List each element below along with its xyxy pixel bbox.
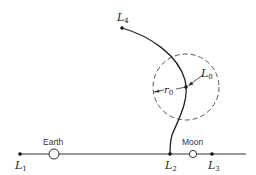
label-l1: L1 — [14, 159, 27, 173]
label-r0: r0 — [164, 84, 173, 97]
point-l4 — [120, 26, 124, 30]
point-l1 — [18, 152, 22, 156]
point-l2 — [168, 152, 172, 156]
moon-body — [189, 150, 196, 157]
label-l2: L2 — [164, 159, 177, 173]
earth-body — [49, 149, 59, 159]
label-earth: Earth — [43, 137, 64, 147]
label-l4: L4 — [116, 11, 129, 25]
point-l3 — [210, 152, 214, 156]
label-moon: Moon — [182, 137, 204, 147]
radius-line — [176, 87, 186, 89]
label-l0: L0 — [200, 67, 213, 81]
label-l3: L3 — [207, 159, 220, 173]
trajectory-curve — [122, 28, 186, 154]
radius-arrowhead-icon — [154, 90, 160, 93]
lagrange-diagram: L4 L0 r0 L1 L2 L3 Earth Moon — [0, 0, 256, 175]
